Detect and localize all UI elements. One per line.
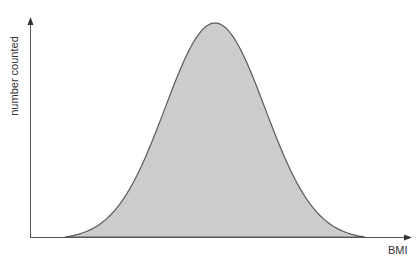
distribution-area [65,23,365,237]
y-axis-arrow-icon [28,17,34,25]
bmi-distribution-chart [0,0,420,268]
x-axis-arrow-icon [404,235,412,241]
y-axis-label: number counted [8,16,20,136]
x-axis-label: BMI [388,244,408,256]
